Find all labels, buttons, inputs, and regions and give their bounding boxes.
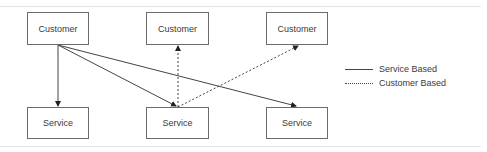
- customer-node-1: Customer: [27, 12, 89, 45]
- service-node-2: Service: [146, 107, 209, 139]
- edge-c1-s3: [58, 45, 296, 106]
- customer-node-2-label: Customer: [158, 24, 197, 34]
- service-node-1: Service: [27, 107, 89, 139]
- customer-node-3-label: Customer: [277, 24, 316, 34]
- solid-line-icon: [345, 69, 373, 70]
- customer-node-2: Customer: [146, 12, 209, 45]
- customer-node-3: Customer: [266, 12, 328, 45]
- legend-service-based: Service Based: [345, 64, 437, 74]
- service-node-2-label: Service: [162, 118, 192, 128]
- edge-c1-s2: [58, 45, 176, 106]
- legend-customer-based: Customer Based: [345, 78, 446, 88]
- legend-customer-based-label: Customer Based: [379, 78, 446, 88]
- customer-node-1-label: Customer: [38, 24, 77, 34]
- service-node-3: Service: [266, 107, 328, 139]
- service-node-1-label: Service: [43, 118, 73, 128]
- edge-s2-c3: [178, 46, 298, 107]
- service-node-3-label: Service: [282, 118, 312, 128]
- legend-service-based-label: Service Based: [379, 64, 437, 74]
- dotted-line-icon: [345, 83, 373, 84]
